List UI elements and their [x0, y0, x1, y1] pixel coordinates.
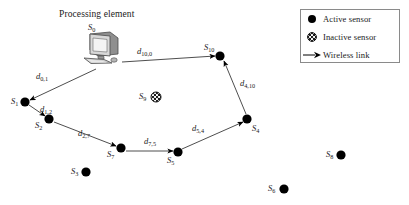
edge-label-d-10-0: d10,0 [137, 46, 152, 56]
node-label-s0: S0 [88, 22, 95, 32]
edge-label-d-2-7: d2,7 [78, 128, 90, 138]
active-sensor-icon [301, 10, 323, 28]
legend-label-wireless-link: Wireless link [323, 50, 370, 60]
legend-box: Active sensor Inactive sensor Wireless l… [300, 9, 400, 63]
node-label-s3: S3 [71, 166, 78, 176]
edge-label-d-0-1: d0,1 [36, 71, 48, 81]
wireless-link-d-10-0 [122, 56, 215, 62]
node-label-s5: S5 [167, 155, 174, 165]
sensor-node-s8 [336, 150, 345, 159]
legend-label-active-sensor: Active sensor [323, 14, 371, 24]
sensor-node-s7 [116, 143, 125, 152]
legend-item-active-sensor: Active sensor [301, 10, 399, 28]
sensor-nodes-group [20, 51, 345, 193]
legend-item-inactive-sensor: Inactive sensor [301, 28, 399, 46]
network-diagram-figure: Processing element S0 S1 S2 S3 S4 S5 S6 … [0, 0, 409, 205]
edge-label-d-1-2: d1,2 [40, 104, 52, 114]
wireless-links-group [29, 56, 246, 151]
processing-element-title: Processing element [59, 9, 134, 19]
sensor-node-s5 [173, 147, 182, 156]
sensor-node-s2 [44, 114, 53, 123]
sensor-node-s6 [279, 184, 288, 193]
legend-label-inactive-sensor: Inactive sensor [323, 32, 376, 42]
sensor-node-s1 [20, 97, 29, 106]
node-label-s6: S6 [268, 183, 275, 193]
desktop-computer-icon [78, 30, 122, 68]
inactive-sensor-icon [301, 28, 323, 46]
inactive-sensor-node-s9 [151, 92, 161, 102]
node-label-s7: S7 [107, 149, 114, 159]
sensor-node-s3 [81, 167, 90, 176]
wireless-link-arrow-icon [301, 46, 323, 64]
sensor-node-s4 [242, 114, 251, 123]
node-label-s10: S10 [204, 42, 214, 52]
node-label-s2: S2 [35, 120, 42, 130]
node-label-s9: S9 [139, 91, 146, 101]
edge-label-d-4-10: d4,10 [240, 78, 255, 88]
sensor-node-s10 [215, 51, 224, 60]
legend-item-wireless-link: Wireless link [301, 46, 399, 64]
edge-label-d-7-5: d7,5 [144, 136, 156, 146]
edge-label-d-5-4: d5,4 [192, 123, 204, 133]
node-label-s1: S1 [11, 96, 18, 106]
node-label-s4: S4 [252, 123, 259, 133]
node-label-s8: S8 [326, 149, 333, 159]
